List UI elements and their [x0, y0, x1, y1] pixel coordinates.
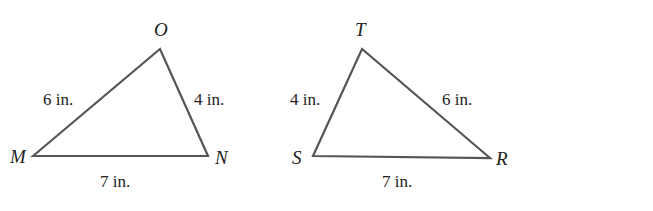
triangles-svg: O M N 6 in. 4 in. 7 in. T S R 4 in. 6 in… — [0, 0, 653, 211]
diagram-canvas: O M N 6 in. 4 in. 7 in. T S R 4 in. 6 in… — [0, 0, 653, 211]
side-label-mo: 6 in. — [43, 90, 73, 109]
vertex-label-n: N — [214, 147, 229, 168]
side-label-on: 4 in. — [194, 90, 224, 109]
side-label-sr: 7 in. — [382, 172, 412, 191]
vertex-label-m: M — [9, 146, 27, 167]
vertex-label-r: R — [495, 148, 508, 169]
vertex-label-s: S — [292, 147, 302, 168]
vertex-label-o: O — [154, 19, 168, 40]
side-label-mn: 7 in. — [100, 172, 130, 191]
side-label-tr: 6 in. — [442, 90, 472, 109]
vertex-label-t: T — [355, 19, 367, 40]
side-label-st: 4 in. — [290, 90, 320, 109]
